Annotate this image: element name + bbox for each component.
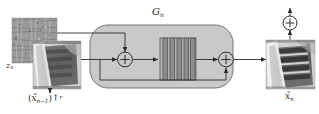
feedback-operator	[283, 16, 297, 30]
residual-sum-operator	[219, 52, 234, 67]
add-noise-operator	[118, 52, 133, 67]
stage-output-label: x̃n	[285, 92, 294, 102]
residual-block-stack	[160, 38, 196, 80]
figure-canvas: zn Gn (x̃n−1)↑r x̃n	[0, 0, 319, 114]
upsampled-previous-output-label: (x̃n−1)↑r	[28, 94, 62, 104]
input-image-thumbnail	[33, 41, 81, 89]
generator-stage-label: Gn	[152, 7, 164, 18]
noise-map-label: zn	[6, 62, 13, 70]
output-image-thumbnail	[266, 40, 315, 89]
